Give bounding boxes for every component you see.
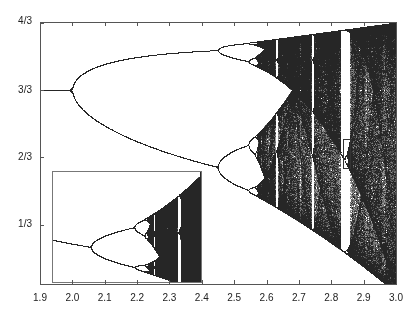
y-tick-label: 3/3 [2,84,32,95]
x-tick-label: 1.9 [25,292,55,303]
x-tick-label: 2.5 [219,292,249,303]
x-tick-label: 2.2 [122,292,152,303]
y-tick-label: 2/3 [2,151,32,162]
bifurcation-plot [0,0,417,321]
x-tick-label: 2.9 [349,292,379,303]
x-tick-label: 2.3 [154,292,184,303]
x-tick-label: 2.0 [57,292,87,303]
x-tick-label: 2.4 [187,292,217,303]
x-tick-label: 2.8 [316,292,346,303]
x-tick-label: 2.6 [252,292,282,303]
y-tick-label: 4/3 [2,15,32,26]
x-tick-label: 2.7 [284,292,314,303]
x-tick-label: 2.1 [90,292,120,303]
y-tick-label: 1/3 [2,218,32,229]
x-tick-label: 3.0 [381,292,411,303]
